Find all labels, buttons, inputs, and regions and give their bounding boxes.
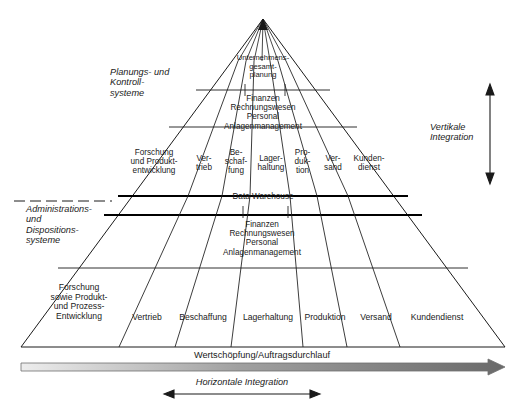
band-separators [58, 90, 468, 268]
upper-column-dividers [188, 61, 348, 196]
horizontal-integration-arrow [164, 390, 320, 398]
pyramid-outline [21, 19, 505, 347]
lower-column-dividers [119, 196, 400, 347]
value-chain-arrow [21, 359, 505, 375]
pyramid-graphic [0, 0, 522, 404]
pyramid-diagram: Unternehmens- gesamt- planung Finanzen R… [0, 0, 522, 404]
vertical-integration-arrow [486, 84, 494, 184]
